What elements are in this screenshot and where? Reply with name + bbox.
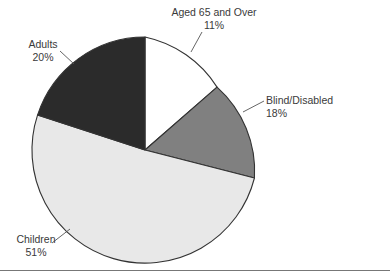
slice-label-percent: 11% <box>159 19 269 32</box>
slice-label-percent: 18% <box>266 107 386 120</box>
slice-label-name: Blind/Disabled <box>266 94 386 107</box>
slice-label-children: Children 51% <box>5 233 67 259</box>
leader-line-aged-65-and-over <box>191 32 202 52</box>
slice-label-blind-disabled: Blind/Disabled 18% <box>266 94 386 120</box>
slice-label-percent: 20% <box>12 51 74 64</box>
slice-label-percent: 51% <box>5 246 67 259</box>
slice-label-name: Children <box>5 233 67 246</box>
slice-label-aged-65-and-over: Aged 65 and Over 11% <box>159 6 269 32</box>
slice-label-name: Adults <box>12 38 74 51</box>
footer-divider <box>0 270 390 271</box>
slice-label-name: Aged 65 and Over <box>159 6 269 19</box>
leader-line-blind-disabled <box>243 101 264 112</box>
slice-label-adults: Adults 20% <box>12 38 74 64</box>
pie-chart-page: Aged 65 and Over 11% Blind/Disabled 18% … <box>0 0 390 280</box>
